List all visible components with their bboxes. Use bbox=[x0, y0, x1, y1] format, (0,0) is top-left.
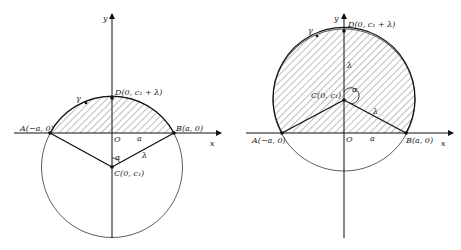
gamma-label: γ bbox=[308, 26, 313, 35]
point-c bbox=[342, 98, 346, 102]
segment-ac bbox=[50, 133, 112, 167]
origin-label: O bbox=[114, 135, 121, 144]
origin-label: O bbox=[346, 135, 353, 144]
x-axis-label: x bbox=[210, 139, 215, 148]
radius-right-label: λ bbox=[372, 107, 378, 116]
x-axis-label: x bbox=[441, 139, 446, 148]
point-d-label: D(0, c₁ + λ) bbox=[114, 88, 162, 97]
point-d-label: D(0, c₁ + λ) bbox=[347, 20, 395, 29]
gamma-label: γ bbox=[76, 94, 81, 103]
point-d bbox=[110, 96, 114, 100]
gamma-marker bbox=[316, 35, 319, 38]
segment-bc bbox=[112, 133, 174, 167]
angle-label: α bbox=[352, 85, 358, 94]
point-a-label: A(−a, 0) bbox=[251, 136, 286, 145]
point-c-label: C(0, c₁) bbox=[114, 169, 144, 178]
point-b-label: B(a, 0) bbox=[405, 136, 433, 145]
point-c-label: C(0, c₁) bbox=[311, 91, 341, 100]
gamma-marker bbox=[85, 102, 88, 105]
point-a-label: A(−a, 0) bbox=[19, 124, 54, 133]
angle-label: α bbox=[115, 153, 121, 162]
point-b bbox=[404, 131, 408, 135]
length-a-label: a bbox=[370, 134, 375, 143]
left-figure: y x D(0, c₁ + λ) γ A(−a, 0) B(a, 0) O a … bbox=[14, 14, 221, 238]
radius-label: λ bbox=[141, 151, 147, 160]
point-d bbox=[342, 29, 346, 33]
y-axis-label: y bbox=[333, 14, 339, 23]
point-b-label: B(a, 0) bbox=[175, 124, 203, 133]
right-figure: y x D(0, c₁ + λ) γ λ α C(0, c₁) λ A(−a, … bbox=[246, 14, 453, 238]
diagram-canvas: y x D(0, c₁ + λ) γ A(−a, 0) B(a, 0) O a … bbox=[0, 0, 461, 250]
radius-top-label: λ bbox=[346, 61, 352, 70]
length-a-label: a bbox=[137, 134, 142, 143]
y-axis-label: y bbox=[102, 14, 108, 23]
point-a bbox=[280, 131, 284, 135]
